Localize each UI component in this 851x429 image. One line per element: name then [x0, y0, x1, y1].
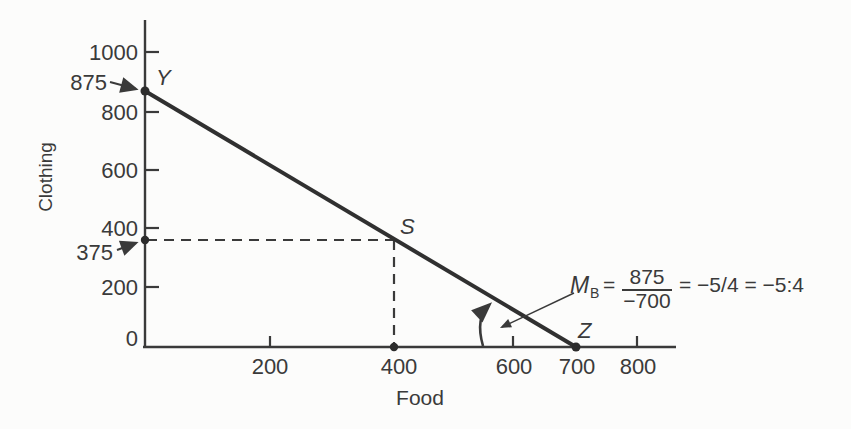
- y-tick-label-800: 800: [101, 100, 138, 125]
- callout-375-arrow-icon: [117, 243, 136, 250]
- y-tick-label-200: 200: [101, 275, 138, 300]
- x-tick-label-400: 400: [381, 354, 418, 379]
- slope-annotation-equals: =: [603, 273, 615, 296]
- y-tick-label-600: 600: [101, 158, 138, 183]
- slope-angle-curved-arrow-icon: [480, 305, 489, 346]
- budget-line: [145, 91, 576, 347]
- slope-annotation-subscript: B: [590, 285, 599, 301]
- scanned-figure-page: 1000 800 600 400 200 0 200 400 600 700 8…: [0, 0, 851, 429]
- callout-375-label: 375: [76, 240, 113, 265]
- point-Y-dot: [141, 87, 150, 96]
- x-axis-title: Food: [396, 386, 444, 409]
- point-Z-dot: [572, 343, 581, 352]
- x-tick-label-700: 700: [559, 354, 596, 379]
- slope-annotation-numerator: 875: [629, 265, 664, 288]
- x-tick-labels: 200 400 600 700 800: [252, 354, 657, 379]
- y-axis-title: Clothing: [35, 142, 56, 212]
- point-label-Z: Z: [577, 318, 593, 343]
- callout-875-arrow-icon: [110, 82, 136, 89]
- slope-annotation: M B = 875 −700 = −5/4 = −5:4: [570, 265, 804, 312]
- callout-875-label: 875: [70, 70, 107, 95]
- point-label-S: S: [400, 214, 415, 239]
- y-tick-label-400: 400: [101, 216, 138, 241]
- x-tick-label-200: 200: [252, 354, 289, 379]
- budget-line-chart: 1000 800 600 400 200 0 200 400 600 700 8…: [0, 0, 851, 429]
- slope-annotation-tail: = −5/4 = −5:4: [679, 273, 804, 296]
- y-tick-label-0: 0: [126, 326, 138, 351]
- x-tick-label-800: 800: [620, 354, 657, 379]
- point-375-on-y-axis-dot: [141, 236, 149, 244]
- slope-annotation-denominator: −700: [623, 289, 670, 312]
- y-tick-label-1000: 1000: [89, 40, 138, 65]
- point-label-Y: Y: [156, 65, 172, 90]
- point-400-on-x-axis-dot: [390, 343, 398, 351]
- slope-annotation-var: M: [570, 272, 590, 298]
- x-tick-label-600: 600: [496, 354, 533, 379]
